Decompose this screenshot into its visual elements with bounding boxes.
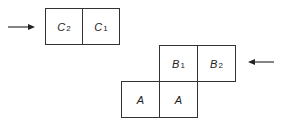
cell-b1: B1 [159,45,198,82]
cell-b2: B2 [197,45,236,82]
right-arrow-icon [7,22,37,32]
cell-a-right: A [159,81,198,118]
cell-letter: B [172,58,179,70]
cell-letter: C [57,21,65,33]
cell-c2: C2 [45,8,83,45]
cell-subscript: 2 [66,24,70,33]
cell-letter: C [94,21,102,33]
cell-letter: B [210,58,217,70]
cell-letter: A [175,94,182,106]
cell-subscript: 2 [218,61,222,70]
cell-subscript: 1 [180,61,184,70]
cell-c1: C1 [82,8,120,45]
cell-a-left: A [121,81,160,118]
cell-subscript: 1 [103,24,107,33]
left-arrow-icon [247,57,277,67]
cell-letter: A [137,94,144,106]
